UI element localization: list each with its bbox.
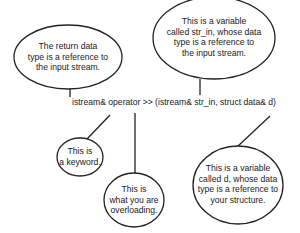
operator-signature: istream& operator >> (istream& str_in, s…: [72, 97, 276, 107]
callout-keyword-line-2: a keyword.: [57, 157, 103, 168]
callout-return-type: The return data type is a reference to t…: [16, 41, 120, 73]
callout-return-type-line-3: the input stream.: [16, 62, 120, 73]
callout-str-in-line-2: called str_in, whose data: [153, 27, 275, 38]
callout-d-param: This is a variable called d, whose data …: [193, 163, 283, 205]
callout-d-param-line-1: This is a variable: [193, 163, 283, 174]
callout-overloading-line-3: overloading.: [104, 205, 164, 216]
callout-d-param-line-4: your structure.: [193, 195, 283, 206]
callout-keyword: This is a keyword.: [57, 146, 103, 167]
callout-overloading-line-2: what you are: [104, 195, 164, 206]
leader-d-param: [237, 116, 270, 147]
callout-return-type-line-2: type is a reference to: [16, 52, 120, 63]
callout-str-in: This is a variable called str_in, whose …: [153, 16, 275, 58]
callout-overloading-line-1: This is: [104, 184, 164, 195]
callout-d-param-line-3: type is a reference to: [193, 184, 283, 195]
callout-return-type-line-1: The return data: [16, 41, 120, 52]
callout-str-in-line-4: the input stream.: [153, 48, 275, 59]
callout-keyword-line-1: This is: [57, 146, 103, 157]
callout-str-in-line-3: type is a reference to: [153, 37, 275, 48]
callout-overloading: This is what you are overloading.: [104, 184, 164, 216]
callout-d-param-line-2: called d, whose data: [193, 174, 283, 185]
callout-str-in-line-1: This is a variable: [153, 16, 275, 27]
leader-keyword: [87, 115, 110, 139]
